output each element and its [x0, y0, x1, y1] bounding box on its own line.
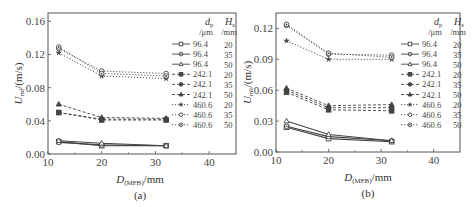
y-axis-label: Umf/(m/s) — [12, 62, 26, 104]
legend-dp-value: 242.1 — [193, 90, 212, 100]
legend-unit-hs: /mm — [221, 27, 237, 37]
legend-dp-value: 460.6 — [422, 120, 441, 130]
y-tick-label: 0.09 — [254, 53, 274, 65]
y-tick-label: 0.00 — [26, 148, 46, 160]
y-tick-label: 0.06 — [254, 84, 274, 96]
legend-hs-value: 20 — [453, 100, 462, 110]
legend-unit-dp: /μm — [199, 27, 213, 37]
series-line — [287, 24, 392, 57]
y-tick-label: 0.12 — [254, 22, 273, 34]
legend-dp-value: 460.6 — [193, 100, 212, 110]
y-tick-label: 0.00 — [254, 146, 274, 158]
y-axis-label: Umb/(m/s) — [241, 61, 255, 105]
triangle-marker — [284, 118, 289, 123]
triangle-marker — [56, 138, 61, 143]
triangle-marker — [179, 62, 183, 66]
filled-circle-marker — [179, 83, 183, 87]
legend-dp-value: 460.6 — [193, 110, 212, 120]
y-tick-label: 0.03 — [254, 115, 274, 127]
legend-hs-value: 20 — [224, 100, 233, 110]
legend: dpHs/μm/mm96.42096.43596.450242.120242.1… — [401, 16, 466, 130]
filled-triangle-marker — [326, 103, 331, 108]
triangle-marker — [408, 62, 412, 66]
filled-triangle-marker — [56, 101, 61, 106]
y-tick-label: 0.04 — [26, 115, 46, 127]
legend: dpHs/μm/mm96.42096.43596.450242.120242.1… — [172, 16, 237, 130]
legend-dp-value: 96.4 — [193, 59, 209, 69]
chart-panel-a: 102030400.000.040.080.120.16D(MFB)/mm(a)… — [12, 13, 237, 202]
star-marker — [408, 102, 412, 106]
legend-hs-value: 35 — [224, 50, 233, 60]
filled-triangle-marker — [164, 116, 169, 121]
legend-hs-value: 50 — [224, 120, 233, 130]
filled-triangle-marker — [179, 92, 183, 96]
legend-hs-value: 20 — [224, 40, 233, 50]
x-tick-label: 30 — [150, 156, 162, 168]
y-tick-label: 0.16 — [26, 15, 46, 27]
open-circle-marker — [408, 113, 412, 117]
panel-label: (a) — [134, 189, 147, 202]
legend-hs-value: 50 — [453, 120, 462, 130]
legend-hs-value: 35 — [453, 80, 462, 90]
x-tick-label: 20 — [96, 156, 108, 168]
legend-unit-dp: /μm — [428, 27, 442, 37]
filled-triangle-marker — [284, 85, 289, 90]
legend-hs-value: 50 — [224, 90, 233, 100]
series-line — [287, 126, 392, 140]
x-axis-label: D(MFB)/mm — [343, 171, 392, 185]
filled-triangle-marker — [99, 115, 104, 120]
x-axis-label: D(MFB)/mm — [115, 173, 164, 187]
legend-dp-value: 96.4 — [422, 39, 438, 49]
legend-hs-value: 35 — [224, 110, 233, 120]
legend-dp-value: 242.1 — [193, 69, 212, 79]
filled-square-marker — [179, 73, 183, 77]
legend-dp-value: 242.1 — [422, 90, 441, 100]
filled-triangle-marker — [389, 102, 394, 107]
legend-hs-value: 20 — [453, 40, 462, 50]
legend-dp-value: 242.1 — [193, 79, 212, 89]
series-line — [59, 104, 167, 118]
series-line — [287, 25, 392, 55]
legend-hs-value: 35 — [224, 80, 233, 90]
legend-hs-value: 20 — [224, 70, 233, 80]
legend-dp-value: 242.1 — [422, 79, 441, 89]
filled-circle-marker — [56, 110, 61, 115]
chart-panel-b: 102030400.000.030.060.090.12D(MFB)/mm(b)… — [241, 13, 466, 200]
triangle-marker — [99, 140, 104, 145]
panel-label: (b) — [362, 187, 375, 200]
square-marker — [179, 42, 183, 46]
filled-square-marker — [408, 73, 412, 77]
x-tick-label: 30 — [376, 154, 388, 166]
legend-hs-value: 35 — [453, 50, 462, 60]
legend-dp-value: 460.6 — [422, 100, 441, 110]
open-circle-marker — [179, 113, 183, 117]
legend-hs-value: 35 — [453, 110, 462, 120]
filled-circle-marker — [408, 83, 412, 87]
x-tick-label: 40 — [428, 154, 440, 166]
figure: 102030400.000.040.080.120.16D(MFB)/mm(a)… — [0, 0, 472, 207]
series-line — [59, 113, 167, 120]
legend-dp-value: 96.4 — [193, 39, 209, 49]
square-marker — [408, 42, 412, 46]
star-marker — [179, 102, 183, 106]
legend-hs-value: 50 — [453, 60, 462, 70]
legend-dp-value: 96.4 — [422, 59, 438, 69]
star-marker — [326, 57, 331, 62]
y-tick-label: 0.08 — [26, 82, 46, 94]
legend-hs-value: 20 — [453, 70, 462, 80]
legend-dp-value: 96.4 — [193, 49, 209, 59]
filled-triangle-marker — [408, 92, 412, 96]
x-tick-label: 20 — [323, 154, 335, 166]
legend-dp-value: 460.6 — [193, 120, 212, 130]
triangle-marker — [326, 132, 331, 137]
legend-unit-hs: /mm — [450, 27, 466, 37]
legend-dp-value: 96.4 — [422, 49, 438, 59]
legend-dp-value: 460.6 — [422, 110, 441, 120]
y-tick-label: 0.12 — [26, 48, 45, 60]
legend-dp-value: 242.1 — [422, 69, 441, 79]
series-line — [287, 41, 392, 60]
legend-hs-value: 50 — [453, 90, 462, 100]
x-tick-label: 40 — [204, 156, 216, 168]
star-marker — [284, 38, 289, 43]
legend-hs-value: 50 — [224, 60, 233, 70]
